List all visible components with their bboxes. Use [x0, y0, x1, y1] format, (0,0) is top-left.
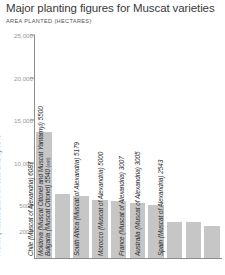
y-axis-tick-label: 25,000 [6, 32, 33, 39]
bar-chart: 25,00020,00015,00010,00050002000 Italy (… [0, 0, 225, 275]
bar-label: Spain (Muscat of Alexandria) 2543 [157, 160, 164, 256]
bar-label-text: France (Muscat Blanc à Petits Grains) 63… [0, 134, 2, 256]
bar-label: Australia (Muscat of Alexandria) 3005 [134, 152, 141, 256]
bar-label: South Africa (Muscat of Alexandria) 5179 [73, 142, 80, 256]
bar[interactable]: France (Muscat of Alexandria) 3007 [167, 222, 183, 258]
x-axis-line [34, 258, 222, 259]
bar-series: Italy (Muscat Blanc à Petits Grains) 13,… [35, 35, 222, 258]
bar-label-text: Spain (Muscat of Alexandria) 2543 [157, 160, 164, 256]
bar-label: France (Muscat of Alexandria) 3007 [118, 156, 125, 256]
bar[interactable]: France (Muscat Blanc à Petits Grains) 63… [55, 194, 71, 258]
bar-label: Chile (Muscat of Alexandria) 6087 [27, 162, 34, 256]
bar-label-text: Bulgaria (Muscat Ottonel) 5540 [44, 169, 51, 256]
bar[interactable]: Australia (Muscat of Alexandria) 3005 [186, 222, 202, 258]
bar-label-note: (est) [46, 157, 51, 169]
y-axis-tick-label: 15,000 [6, 117, 33, 124]
chart-page: Major planting figures for Muscat variet… [0, 0, 225, 275]
bar-label: France (Muscat Blanc à Petits Grains) 63… [0, 134, 2, 256]
y-axis-tick-label: 20,000 [6, 74, 33, 81]
bar[interactable]: Spain (Muscat of Alexandria) 2543 [204, 226, 220, 258]
bar-label-text: Chile (Muscat of Alexandria) 6087 [27, 162, 34, 256]
bar-label: Morocco (Muscat of Alexandria) 5000 [97, 152, 104, 256]
bar-label-text: South Africa (Muscat of Alexandria) 5179 [73, 142, 80, 256]
bar-label-text: Australia (Muscat of Alexandria) 3005 [134, 152, 141, 256]
bar-label: Bulgaria (Muscat Ottonel) 5540 (est) [44, 157, 51, 256]
bar-label-text: Moldova (Muscat Ottonel and Muscat Yanta… [37, 106, 44, 256]
bar-label-text: Morocco (Muscat of Alexandria) 5000 [97, 152, 104, 256]
bar-label: Moldova (Muscat Ottonel and Muscat Yanta… [37, 106, 44, 256]
bar-label-text: France (Muscat of Alexandria) 3007 [118, 156, 125, 256]
